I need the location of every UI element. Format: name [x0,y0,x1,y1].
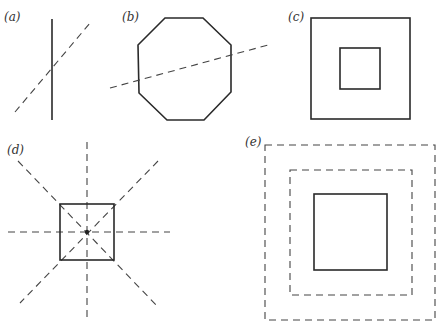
panel-d: (d) [7,142,170,322]
panel-a-label: (a) [4,10,21,24]
panel-e-label: (e) [245,135,262,149]
panel-c-label: (c) [288,10,304,24]
slanted-dashed-line [110,45,268,88]
panel-b: (b) [110,10,268,120]
inner-square [340,48,380,89]
center-point [85,230,89,234]
symmetry-figure: (a) (b) (c) (d) (e) [0,0,442,330]
panel-a: (a) [4,10,90,120]
octagon [138,18,231,120]
panel-c: (c) [288,10,410,119]
panel-e: (e) [245,135,435,320]
panel-d-label: (d) [7,143,24,157]
middle-dashed-square [290,170,412,295]
inner-solid-square [314,194,387,270]
outer-square [311,18,410,119]
panel-b-label: (b) [122,10,139,24]
